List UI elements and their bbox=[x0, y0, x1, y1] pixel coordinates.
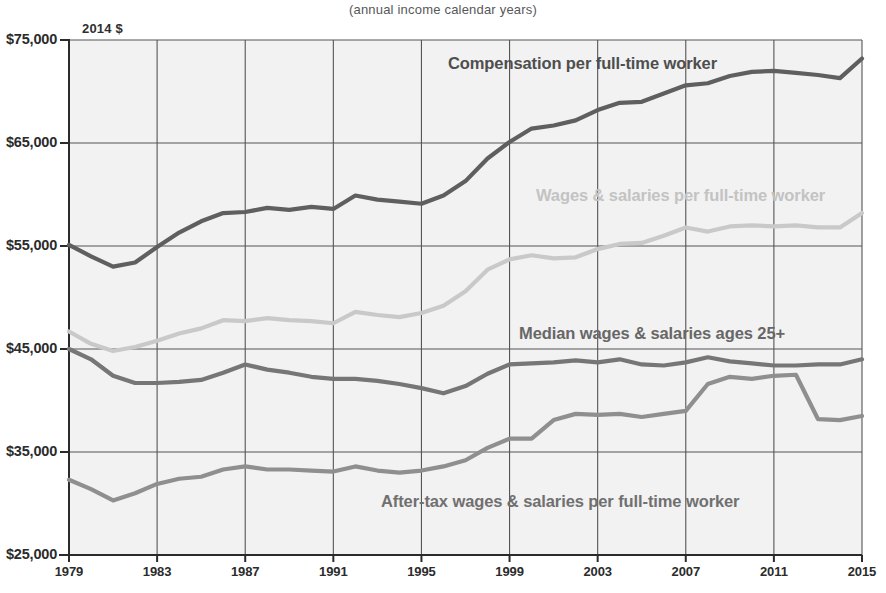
series-label-2: Median wages & salaries ages 25+ bbox=[519, 324, 785, 343]
series-label-1: Wages & salaries per full-time worker bbox=[536, 186, 825, 205]
x-axis-tick-label: 2007 bbox=[656, 564, 716, 579]
y-axis-tick-label: $25,000 bbox=[0, 546, 57, 562]
x-axis-tick-label: 1987 bbox=[215, 564, 275, 579]
x-axis-tick-label: 2003 bbox=[568, 564, 628, 579]
series-label-3: After-tax wages & salaries per full-time… bbox=[381, 492, 739, 511]
series-label-0: Compensation per full-time worker bbox=[448, 54, 717, 73]
x-axis-tick-label: 1983 bbox=[127, 564, 187, 579]
x-axis-tick-label: 1995 bbox=[391, 564, 451, 579]
y-axis-tick-label: $45,000 bbox=[0, 340, 57, 356]
chart-container: (annual income calendar years) 2014 $ $2… bbox=[0, 0, 886, 593]
x-axis-tick-label: 2015 bbox=[832, 564, 886, 579]
y-axis-tick-label: $55,000 bbox=[0, 237, 57, 253]
x-axis-tick-label: 1979 bbox=[39, 564, 99, 579]
y-axis-tick-label: $75,000 bbox=[0, 31, 57, 47]
y-axis-tick-label: $35,000 bbox=[0, 443, 57, 459]
x-axis-tick-label: 2011 bbox=[744, 564, 804, 579]
x-axis-tick-label: 1999 bbox=[480, 564, 540, 579]
x-axis-tick-label: 1991 bbox=[303, 564, 363, 579]
y-axis-tick-label: $65,000 bbox=[0, 134, 57, 150]
